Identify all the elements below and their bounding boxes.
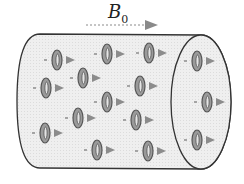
field-label: B0 [108, 1, 128, 26]
field-symbol: B [108, 1, 121, 22]
cylinder-diagram [0, 0, 244, 184]
field-subscript: 0 [121, 13, 128, 26]
